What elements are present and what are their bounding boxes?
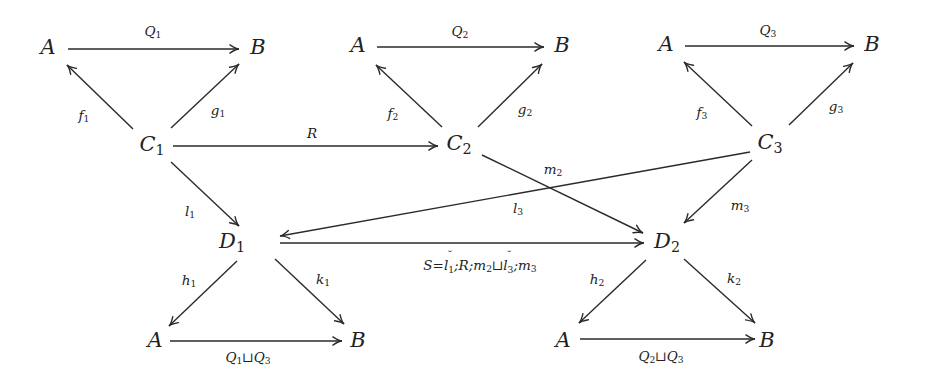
arrow-g1 <box>171 64 239 128</box>
edge-label-f2: f2 <box>388 107 399 122</box>
node-C2: C2 <box>446 133 471 156</box>
edge-label-R: R <box>307 127 317 141</box>
arrow-l1 <box>171 162 239 226</box>
edge-label-g1: g1 <box>211 104 226 119</box>
node-D2: D2 <box>654 231 680 254</box>
node-A_b1: A <box>147 330 162 351</box>
commutative-diagram: ABC1ABC2ABC3D1D2ABAB Q1f1g1RQ2f2g2Q3f3g3… <box>0 0 928 386</box>
node-A_t1: A <box>40 37 55 58</box>
arrow-Q2uQ3 <box>580 335 755 343</box>
arrow-f1 <box>67 65 133 129</box>
node-B_t1: B <box>250 37 265 58</box>
arrow-Q1 <box>68 45 239 53</box>
edges-layer <box>0 0 928 386</box>
edge-label-h1: h1 <box>182 274 197 289</box>
arrow-g3 <box>789 63 853 125</box>
node-A_t2: A <box>350 35 365 56</box>
arrow-m3 <box>684 160 752 223</box>
edge-label-g2: g2 <box>518 103 533 118</box>
edge-label-Q2-join-Q3: Q2⊔Q3 <box>638 350 683 365</box>
arrow-f3 <box>684 62 752 126</box>
node-B_b2: B <box>759 330 774 351</box>
edge-label-f3: f3 <box>697 106 708 121</box>
arrow-l3 <box>280 152 750 238</box>
arrow-Q2 <box>377 43 544 51</box>
node-B_t2: B <box>554 35 569 56</box>
edge-label-m3: m3 <box>731 199 750 214</box>
edge-label-S: S=l1˘;R;m2⊔l3˘;m3 <box>423 259 536 274</box>
arrow-m2 <box>482 155 643 233</box>
arrow-k1 <box>275 259 344 324</box>
arrow-Q1uQ3 <box>170 337 342 345</box>
edge-label-l1: l1 <box>185 205 195 220</box>
edge-label-Q3: Q3 <box>760 24 777 39</box>
arrow-Q3 <box>685 42 854 50</box>
node-B_b1: B <box>350 330 365 351</box>
node-A_t3: A <box>658 34 673 55</box>
arrow-h2 <box>579 260 646 323</box>
edge-label-Q1: Q1 <box>145 25 162 40</box>
edge-label-g3: g3 <box>829 100 844 115</box>
arrow-f2 <box>376 65 442 127</box>
node-D1: D1 <box>219 231 245 254</box>
edge-label-h2: h2 <box>590 273 605 288</box>
edge-label-l3: l3 <box>513 202 523 217</box>
edge-label-k2: k2 <box>727 272 741 287</box>
edge-label-m2: m2 <box>544 163 563 178</box>
arrow-S <box>280 239 644 247</box>
node-C3: C3 <box>757 132 782 155</box>
arrow-k2 <box>684 259 755 323</box>
edge-label-Q2: Q2 <box>452 25 469 40</box>
arrow-h1 <box>169 261 237 326</box>
node-B_t3: B <box>864 34 879 55</box>
edge-label-Q1-join-Q3: Q1⊔Q3 <box>225 351 270 366</box>
node-A_b2: A <box>555 330 570 351</box>
edge-label-f1: f1 <box>79 109 90 124</box>
edge-label-k1: k1 <box>316 273 330 288</box>
arrow-g2 <box>478 64 542 127</box>
arrow-R <box>173 142 438 150</box>
node-C1: C1 <box>139 134 164 157</box>
